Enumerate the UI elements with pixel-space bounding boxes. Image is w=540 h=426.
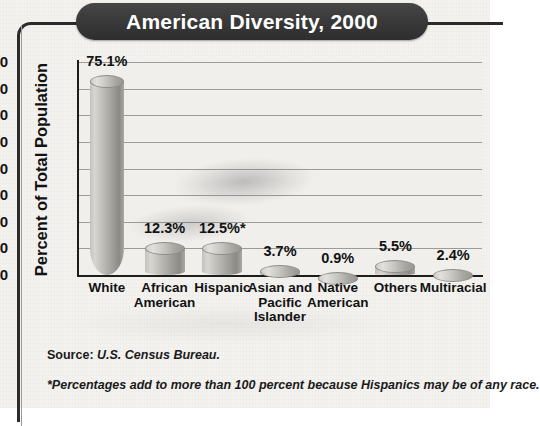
bar [145, 242, 185, 275]
y-axis-tick-label: 40 [0, 161, 8, 176]
x-axis-category-line: American [295, 296, 381, 311]
gridline [78, 115, 482, 116]
y-axis-tick-label: 30 [0, 187, 8, 202]
bar-value-label: 12.5%* [177, 220, 267, 236]
x-axis-category-line: Multiracial [410, 281, 496, 296]
bar [90, 75, 124, 275]
source-note: Source: U.S. Census Bureau. [47, 348, 220, 362]
gridline [78, 89, 482, 90]
bar [318, 272, 358, 275]
x-axis-category-label: Multiracial [410, 281, 496, 296]
y-axis-tick-label: 20 [0, 214, 8, 229]
y-axis-tick-label: 0 [0, 267, 8, 282]
chart-title-banner: American Diversity, 2000 [76, 3, 428, 40]
gridline [78, 142, 482, 143]
bar-body [90, 81, 124, 275]
y-axis-tick-label: 60 [0, 107, 8, 122]
bar-value-label: 2.4% [408, 247, 498, 263]
y-axis-tick-label: 70 [0, 81, 8, 96]
bar-top-ellipse [90, 75, 124, 88]
x-axis-category-line: American [122, 296, 208, 311]
source-label: Source: [47, 348, 97, 362]
gridline [78, 169, 482, 170]
bar [260, 265, 300, 275]
x-axis-category-line: Islander [237, 310, 323, 325]
y-axis-tick-label: 80 [0, 54, 8, 69]
bar-value-label: 75.1% [62, 53, 152, 69]
chart-title: American Diversity, 2000 [126, 10, 378, 34]
bar [433, 269, 473, 275]
y-axis-line [77, 60, 79, 277]
source-value: U.S. Census Bureau. [97, 348, 220, 362]
y-axis-tick-label: 50 [0, 134, 8, 149]
y-axis-tick-label: 10 [0, 240, 8, 255]
y-axis-title: Percent of Total Population [32, 55, 51, 285]
footnote: *Percentages add to more than 100 percen… [47, 378, 540, 392]
gridline [78, 195, 482, 196]
